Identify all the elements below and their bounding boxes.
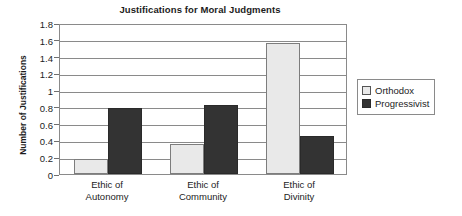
legend-label: Orthodox	[375, 85, 414, 96]
bar-orthodox-1	[74, 159, 108, 174]
legend-swatch-icon	[362, 99, 371, 108]
bar-chart: Justifications for Moral Judgments Numbe…	[0, 0, 462, 216]
bars-layer	[60, 25, 346, 174]
y-tick-label: 0.6	[19, 119, 53, 130]
bar-orthodox-3	[266, 43, 300, 174]
x-tick-label-line: Ethic of	[59, 179, 155, 191]
x-tick-label-line: Community	[155, 191, 251, 203]
y-tick-label: 1.2	[19, 69, 53, 80]
x-tick-label: Ethic ofCommunity	[155, 179, 251, 202]
bar-progressivist-2	[204, 105, 238, 174]
legend-item-orthodox: Orthodox	[362, 84, 429, 97]
x-tick-label: Ethic ofAutonomy	[59, 179, 155, 202]
y-tick-label: 1.6	[19, 35, 53, 46]
plot-area	[59, 24, 347, 175]
y-tick-label: 1.8	[19, 19, 53, 30]
x-tick-label-line: Ethic of	[251, 179, 347, 191]
y-tick-label: 0	[19, 170, 53, 181]
x-tick-label-line: Autonomy	[59, 191, 155, 203]
y-tick-label: 0.2	[19, 153, 53, 164]
y-tick-label: 1	[19, 86, 53, 97]
legend: OrthodoxProgressivist	[357, 79, 435, 115]
bar-orthodox-2	[170, 144, 204, 174]
y-tick-label: 0.8	[19, 102, 53, 113]
legend-item-progressivist: Progressivist	[362, 97, 429, 110]
bar-progressivist-1	[108, 108, 142, 174]
y-tick-label: 0.4	[19, 136, 53, 147]
bar-progressivist-3	[300, 136, 334, 174]
legend-swatch-icon	[362, 86, 371, 95]
x-tick-label-line: Divinity	[251, 191, 347, 203]
legend-label: Progressivist	[375, 98, 429, 109]
x-tick-label: Ethic ofDivinity	[251, 179, 347, 202]
y-tick-label: 1.4	[19, 52, 53, 63]
x-tick-label-line: Ethic of	[155, 179, 251, 191]
chart-title: Justifications for Moral Judgments	[0, 4, 400, 15]
